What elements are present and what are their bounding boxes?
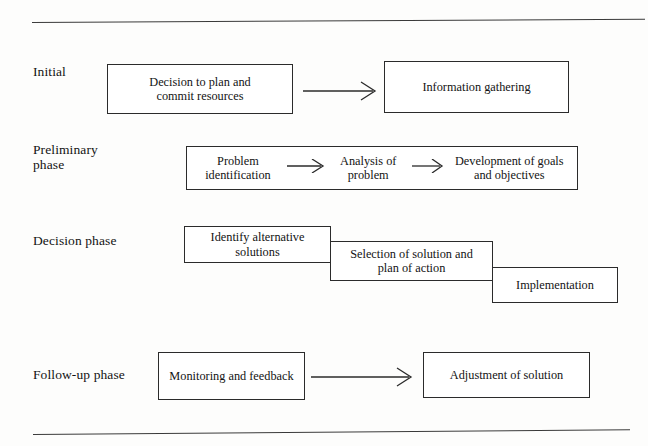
phase-label-follow-up: Follow-up phase bbox=[33, 367, 125, 382]
box-monitoring-and-feedback: Monitoring and feedback bbox=[158, 352, 305, 400]
box-identify-alternative-solutions: Identify alternative solutions bbox=[184, 226, 331, 263]
box-adjustment-of-solution: Adjustment of solution bbox=[423, 352, 590, 398]
cell-development-of-goals: Development of goals and objectives bbox=[450, 154, 569, 183]
box-selection-of-solution-text: Selection of solution and plan of action bbox=[350, 247, 473, 276]
box-implementation-text: Implementation bbox=[516, 278, 594, 292]
box-adjustment-of-solution-text: Adjustment of solution bbox=[450, 368, 563, 382]
box-implementation: Implementation bbox=[492, 267, 618, 303]
box-preliminary-phase-compound: Problem identification Analysis of probl… bbox=[186, 146, 578, 190]
top-horizontal-rule bbox=[32, 19, 645, 23]
box-information-gathering-text: Information gathering bbox=[422, 80, 530, 94]
box-selection-of-solution: Selection of solution and plan of action bbox=[330, 241, 493, 281]
cell-problem-identification: Problem identification bbox=[195, 154, 281, 183]
phase-label-preliminary: Preliminary phase bbox=[33, 142, 143, 172]
box-decision-to-plan: Decision to plan and commit resources bbox=[107, 64, 293, 114]
phase-label-decision: Decision phase bbox=[33, 233, 117, 248]
arrow-problem-to-analysis bbox=[287, 159, 325, 176]
box-information-gathering: Information gathering bbox=[384, 61, 569, 113]
cell-analysis-of-problem: Analysis of problem bbox=[331, 154, 406, 183]
box-identify-alternative-solutions-text: Identify alternative solutions bbox=[211, 230, 305, 259]
arrow-initial-to-information-gathering bbox=[303, 82, 377, 100]
phase-label-initial: Initial bbox=[33, 64, 66, 79]
bottom-horizontal-rule bbox=[33, 429, 630, 435]
arrow-monitoring-to-adjustment bbox=[311, 368, 413, 386]
box-monitoring-and-feedback-text: Monitoring and feedback bbox=[169, 369, 293, 383]
box-decision-to-plan-text: Decision to plan and commit resources bbox=[149, 75, 250, 104]
figure-canvas: Initial Decision to plan and commit reso… bbox=[0, 0, 648, 446]
arrow-analysis-to-development bbox=[412, 159, 444, 176]
